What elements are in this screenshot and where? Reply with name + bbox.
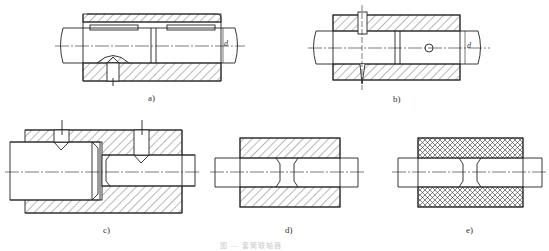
panel-c-label: c) <box>103 225 110 235</box>
panel-e-drawing <box>392 138 548 207</box>
figure-caption: 图 — 套筒联轴器 <box>220 240 350 248</box>
panel-b-label: b) <box>393 94 401 104</box>
panel-e-label: e) <box>466 225 473 235</box>
panel-a-label: a) <box>148 93 155 103</box>
panel-a-dimension: d <box>224 39 228 48</box>
panel-a-drawing <box>55 14 245 86</box>
panel-b-dimension: d <box>467 41 471 50</box>
panel-d-label: d) <box>285 225 293 235</box>
panel-d-drawing <box>210 138 365 207</box>
figure-drawing <box>0 0 549 251</box>
panel-c-drawing <box>5 120 200 213</box>
coupling-figure: d d a) b) c) d) e) 图 — 套筒联轴器 <box>0 0 549 251</box>
panel-b-drawing <box>308 5 490 90</box>
